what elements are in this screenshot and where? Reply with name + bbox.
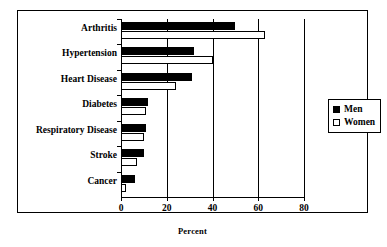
legend-swatch-icon <box>333 106 340 113</box>
y-tick-mark <box>117 70 121 71</box>
plot-area: 020406080 ArthritisHypertensionHeart Dis… <box>121 19 304 197</box>
category-label: Diabetes <box>82 95 117 120</box>
x-tick-label-80: 80 <box>299 203 309 213</box>
x-tick-label-60: 60 <box>254 203 264 213</box>
category-label: Heart Disease <box>61 70 117 95</box>
bar-women <box>121 158 137 166</box>
y-tick-mark <box>117 44 121 45</box>
chart-legend: MenWomen <box>328 99 381 133</box>
bar-men <box>121 73 192 81</box>
legend-item: Men <box>333 103 375 116</box>
x-axis-title: Percent <box>17 226 368 236</box>
gridline-80 <box>304 19 305 197</box>
category-label: Arthritis <box>81 19 117 44</box>
category-label: Hypertension <box>62 44 117 69</box>
bar-men <box>121 98 148 106</box>
legend-swatch-icon <box>333 119 340 126</box>
bar-group: Stroke <box>121 146 304 171</box>
bar-group: Diabetes <box>121 95 304 120</box>
bar-women <box>121 31 265 39</box>
legend-item: Women <box>333 116 375 129</box>
x-tick-mark-60 <box>258 197 259 201</box>
bar-women <box>121 184 126 192</box>
x-tick-mark-20 <box>167 197 168 201</box>
chart-figure-frame: 020406080 ArthritisHypertensionHeart Dis… <box>17 10 368 213</box>
bar-men <box>121 149 144 157</box>
x-tick-mark-0 <box>121 197 122 201</box>
y-tick-mark <box>117 172 121 173</box>
bar-men <box>121 22 235 30</box>
y-tick-mark <box>117 19 121 20</box>
legend-label: Men <box>344 105 362 115</box>
bar-women <box>121 56 213 64</box>
x-tick-label-0: 0 <box>119 203 124 213</box>
bar-men <box>121 47 194 55</box>
y-tick-mark <box>117 95 121 96</box>
bar-men <box>121 124 146 132</box>
bar-men <box>121 175 135 183</box>
bar-group: Cancer <box>121 172 304 197</box>
category-label: Respiratory Disease <box>36 121 117 146</box>
y-tick-mark <box>117 146 121 147</box>
x-tick-mark-40 <box>213 197 214 201</box>
x-tick-mark-80 <box>304 197 305 201</box>
bar-group: Hypertension <box>121 44 304 69</box>
bar-group: Arthritis <box>121 19 304 44</box>
y-tick-mark <box>117 121 121 122</box>
bar-women <box>121 107 146 115</box>
category-label: Stroke <box>90 146 117 171</box>
bar-women <box>121 82 176 90</box>
x-tick-label-40: 40 <box>208 203 218 213</box>
bar-women <box>121 133 144 141</box>
legend-label: Women <box>344 118 375 128</box>
category-label: Cancer <box>87 172 117 197</box>
x-tick-label-20: 20 <box>162 203 172 213</box>
bar-group: Respiratory Disease <box>121 121 304 146</box>
bar-group: Heart Disease <box>121 70 304 95</box>
